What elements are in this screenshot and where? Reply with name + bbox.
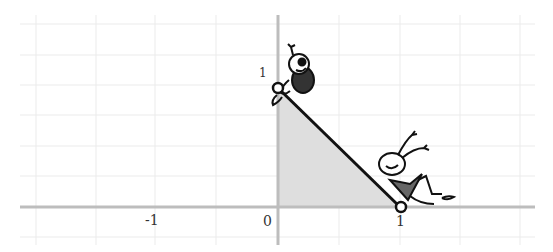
- y-tick-label-1: 1: [259, 66, 267, 80]
- vertex-point-top: [273, 83, 283, 93]
- bug-figure-right-icon: [379, 131, 454, 204]
- x-tick-label-neg1: -1: [145, 212, 159, 228]
- vertex-point-right: [396, 202, 406, 212]
- x-tick-label-1: 1: [396, 213, 405, 229]
- diagram-canvas: -1 0 1 1: [0, 0, 553, 252]
- coordinate-plane: [0, 0, 553, 252]
- x-tick-label-0: 0: [263, 213, 272, 229]
